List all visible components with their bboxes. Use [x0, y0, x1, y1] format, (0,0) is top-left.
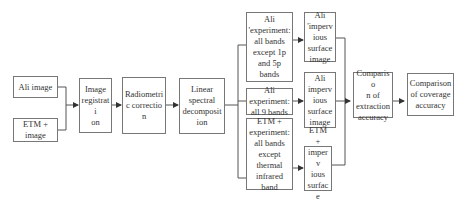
- node-etm-impervious: ETM + imperv ious surface image: [304, 146, 332, 191]
- node-comparison-coverage: Comparison of coverage accuracy: [407, 73, 454, 116]
- node-ali-impervious-1: Ali 'imperv ious surface image: [304, 12, 336, 62]
- node-image-registration: Image registrati on: [79, 78, 112, 133]
- flowchart-canvas: Ali image ETM + image Image registrati o…: [0, 0, 466, 203]
- node-radiometric-correction: Radiometri c correction: [122, 77, 166, 134]
- node-etm-experiment: ETM + experiment: all bands except therm…: [246, 118, 293, 190]
- node-ali-experiment-1: Ali 'experiment: all bands except 1p and…: [246, 12, 293, 82]
- node-ali-image: Ali image: [13, 76, 58, 98]
- connector-lines: [0, 0, 466, 203]
- node-ali-impervious-2: Ali imperv ious surface image: [304, 72, 336, 128]
- node-linear-spectral-decomposition: Linear spectral decomposit ion: [179, 78, 225, 134]
- node-ali-experiment-2: Ali experiment: all 9 bands: [246, 88, 293, 115]
- node-etm-image: ETM + image: [13, 118, 58, 142]
- node-comparison-extraction: Compariso n of extraction accuracy: [353, 72, 393, 118]
